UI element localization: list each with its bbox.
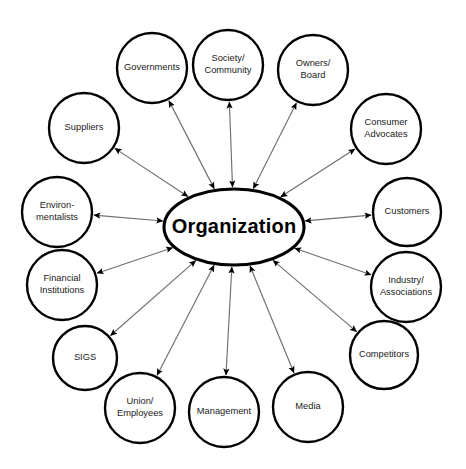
node-financial[interactable]: FinancialInstitutions xyxy=(27,250,97,320)
edge-organization-suppliers xyxy=(115,148,188,196)
node-label-environmentalists: Environ-mentalists xyxy=(36,201,78,223)
node-label-competitors: Competitors xyxy=(359,349,409,359)
center-node-layer: Organization xyxy=(164,189,304,265)
edge-organization-society xyxy=(229,102,232,187)
node-label-management: Management xyxy=(197,406,252,416)
node-union[interactable]: Union/Employees xyxy=(105,373,175,443)
node-industry[interactable]: Industry/Associations xyxy=(371,252,441,322)
node-owners[interactable]: Owners/Board xyxy=(278,35,348,105)
edge-organization-financial xyxy=(97,248,173,273)
edge-organization-media xyxy=(250,266,294,373)
node-label-governments: Governments xyxy=(124,62,180,72)
node-label-financial: FinancialInstitutions xyxy=(40,274,85,296)
node-consumer-advocates[interactable]: ConsumerAdvocates xyxy=(351,94,421,164)
edge-organization-environmentalists xyxy=(94,215,163,221)
node-competitors[interactable]: Competitors xyxy=(350,321,418,389)
node-media[interactable]: Media xyxy=(273,372,343,442)
node-management[interactable]: Management xyxy=(189,377,259,447)
edge-organization-competitors xyxy=(273,260,357,331)
node-label-suppliers: Suppliers xyxy=(65,122,104,132)
node-environmentalists[interactable]: Environ-mentalists xyxy=(22,177,92,247)
stakeholder-diagram: GovernmentsSociety/CommunityOwners/Board… xyxy=(0,0,466,469)
node-label-sigs: SIGS xyxy=(74,352,96,362)
node-label-consumer-advocates: ConsumerAdvocates xyxy=(364,118,408,140)
node-sigs[interactable]: SIGS xyxy=(53,326,117,390)
node-label-customers: Customers xyxy=(385,206,430,216)
node-customers[interactable]: Customers xyxy=(373,178,441,246)
edge-organization-management xyxy=(226,267,232,375)
center-label: Organization xyxy=(172,215,297,237)
diagram-canvas: GovernmentsSociety/CommunityOwners/Board… xyxy=(0,0,466,469)
edge-organization-owners xyxy=(253,103,296,189)
node-organization[interactable]: Organization xyxy=(164,189,304,265)
node-governments[interactable]: Governments xyxy=(117,33,187,103)
node-label-media: Media xyxy=(295,401,321,411)
edge-organization-union xyxy=(157,265,214,375)
edge-organization-customers xyxy=(305,215,371,221)
edge-organization-consumer-advocates xyxy=(281,149,355,197)
edge-organization-industry xyxy=(295,248,371,275)
node-society[interactable]: Society/Community xyxy=(193,30,263,100)
edge-organization-governments xyxy=(169,101,214,189)
node-suppliers[interactable]: Suppliers xyxy=(49,93,119,163)
